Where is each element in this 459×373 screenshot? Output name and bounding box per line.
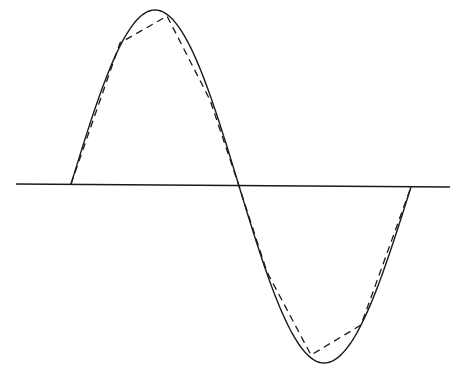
horizontal-axis — [16, 184, 450, 187]
sine-approximation-diagram — [0, 0, 459, 373]
